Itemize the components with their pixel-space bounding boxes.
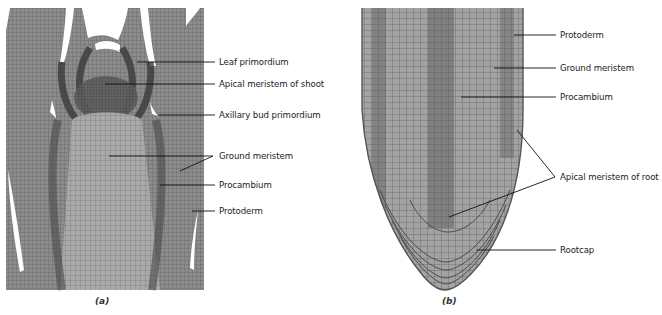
label-protoderm-a: Protoderm [219,206,263,216]
micrograph-illustrations [0,0,662,315]
label-protoderm-b: Protoderm [560,30,604,40]
label-procambium-a: Procambium [219,180,272,190]
figure: Leaf primordium Apical meristem of shoot… [0,0,662,315]
label-procambium-b: Procambium [560,92,613,102]
label-leaf-primordium: Leaf primordium [219,57,289,67]
label-axillary-bud-primordium: Axillary bud primordium [219,110,321,120]
label-ground-meristem-a: Ground meristem [219,151,293,161]
label-ground-meristem-b: Ground meristem [560,63,634,73]
caption-b: (b) [442,296,457,306]
label-apical-meristem-of-root: Apical meristem of root [560,172,659,182]
shoot-apex-image [6,8,204,290]
caption-a: (a) [95,296,109,306]
label-apical-meristem-of-shoot: Apical meristem of shoot [219,79,324,89]
root-tip-image [360,8,526,292]
label-rootcap: Rootcap [560,245,594,255]
